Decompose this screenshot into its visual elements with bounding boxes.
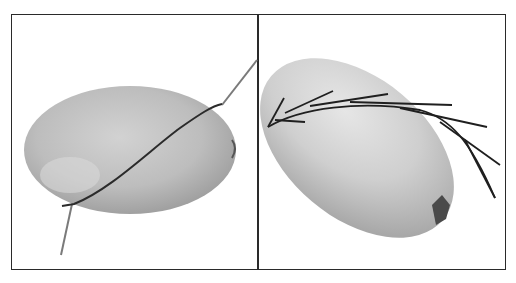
left-stick	[61, 204, 72, 255]
left-panel-photo	[24, 60, 257, 255]
right-squash	[226, 22, 488, 273]
left-squash	[24, 86, 236, 214]
figure-illustration	[0, 0, 516, 283]
right-panel-photo	[226, 22, 500, 273]
